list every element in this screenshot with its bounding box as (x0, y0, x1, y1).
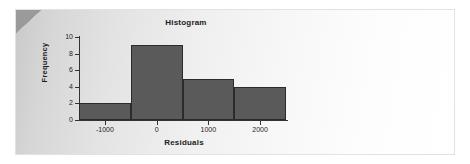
y-tick-label: 2 (29, 99, 73, 106)
histogram-bar (183, 79, 235, 121)
x-tick-label: 1000 (183, 126, 233, 133)
y-tick-label: 6 (29, 66, 73, 73)
x-tick-label: -1000 (80, 126, 130, 133)
x-tick-label: 2000 (235, 126, 285, 133)
figure-panel: Histogram Frequency Residuals 0246810 -1… (15, 9, 455, 155)
x-tick-mark (157, 121, 158, 125)
y-tick-label: 10 (29, 33, 73, 40)
screenshot-root: Histogram Frequency Residuals 0246810 -1… (0, 0, 470, 164)
x-tick-mark (208, 121, 209, 125)
x-tick-mark (260, 121, 261, 125)
y-tick-label: 8 (29, 50, 73, 57)
chart-title: Histogram (126, 18, 246, 27)
x-tick-label: 0 (132, 126, 182, 133)
x-axis-line (79, 120, 288, 121)
x-tick-mark (105, 121, 106, 125)
y-tick-mark (75, 120, 79, 121)
x-axis-label: Residuals (129, 138, 239, 147)
histogram-bar (131, 45, 183, 120)
y-tick-label: 4 (29, 83, 73, 90)
histogram-chart: Histogram Frequency Residuals 0246810 -1… (16, 10, 456, 156)
histogram-bar (234, 87, 286, 120)
y-tick-label: 0 (29, 116, 73, 123)
plot-area (79, 37, 286, 120)
histogram-bar (79, 103, 131, 120)
